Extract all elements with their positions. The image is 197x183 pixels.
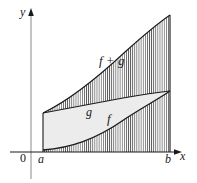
curve-label-f: f: [107, 112, 111, 125]
left-bound-label-a: a: [38, 153, 44, 165]
region-label-g: g: [86, 106, 92, 118]
figure-canvas: y x 0 a b f + g g f: [0, 0, 197, 183]
curve-label-f-plus-g: f + g: [99, 54, 124, 67]
origin-label: 0: [20, 152, 26, 164]
right-bound-label-b: b: [165, 153, 171, 165]
y-axis-arrow-icon: [28, 8, 34, 16]
x-axis-label: x: [180, 150, 185, 162]
y-axis-label: y: [20, 6, 25, 18]
